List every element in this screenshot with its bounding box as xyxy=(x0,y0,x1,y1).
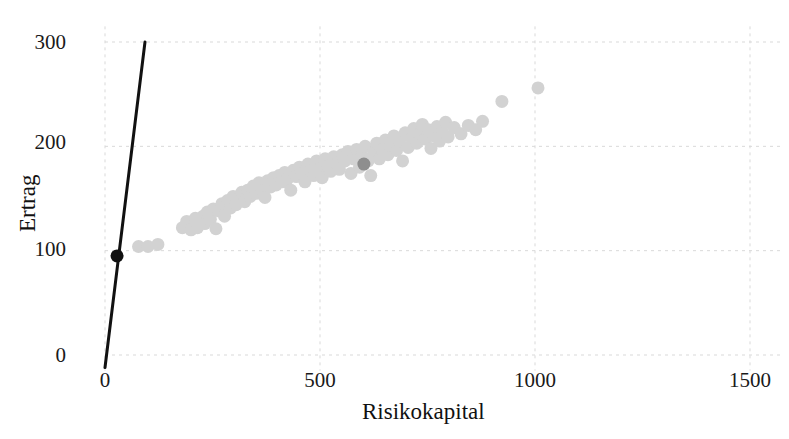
series-points-portfolio-cloud xyxy=(132,81,544,253)
scatter-chart-figure: 300 200 100 0 0 500 1000 1500 Risikokapi… xyxy=(0,0,789,439)
series-points-highlighted-portfolio xyxy=(357,158,370,171)
data-point xyxy=(396,154,409,167)
x-tick-label-1000: 1000 xyxy=(505,370,565,391)
data-series-group xyxy=(105,42,545,368)
series-line-capital-market-line xyxy=(105,42,145,368)
data-point xyxy=(532,81,545,94)
y-tick-label-300: 300 xyxy=(4,32,66,53)
gridlines-group xyxy=(105,26,780,370)
y-tick-label-0: 0 xyxy=(4,345,66,366)
data-point xyxy=(151,238,164,251)
y-tick-label-100: 100 xyxy=(4,239,66,260)
data-point xyxy=(476,115,489,128)
data-point xyxy=(284,184,297,197)
y-tick-label-200: 200 xyxy=(4,132,66,153)
x-tick-label-500: 500 xyxy=(290,370,350,391)
x-tick-label-1500: 1500 xyxy=(720,370,780,391)
x-tick-label-0: 0 xyxy=(75,370,135,391)
x-axis-title: Risikokapital xyxy=(362,400,485,423)
data-point xyxy=(364,169,377,182)
y-axis-title: Ertrag xyxy=(16,175,39,232)
data-point xyxy=(209,222,222,235)
data-point xyxy=(357,158,370,171)
data-point xyxy=(495,95,508,108)
